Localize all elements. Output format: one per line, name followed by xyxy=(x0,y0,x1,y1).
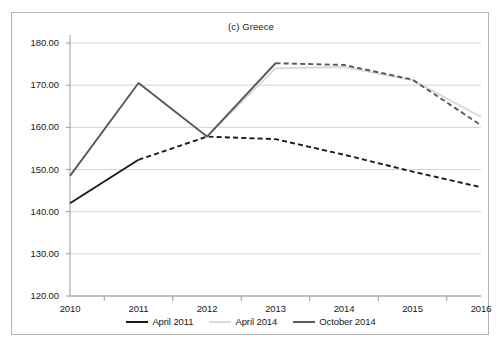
y-axis-tick-label: 180.00 xyxy=(13,37,59,48)
series-line-october-2014-solid xyxy=(70,63,276,176)
legend-label: April 2014 xyxy=(235,316,277,327)
legend-line-swatch xyxy=(209,321,231,323)
legend-item[interactable]: April 2014 xyxy=(209,316,277,327)
x-axis-tick-label: 2010 xyxy=(50,303,90,314)
figure-canvas: (c) Greece 120.00130.00140.00150.00160.0… xyxy=(0,0,501,349)
series-line-october-2014-dashed xyxy=(276,63,482,125)
x-axis-tick-label: 2014 xyxy=(324,303,364,314)
x-axis-tick-label: 2015 xyxy=(393,303,433,314)
legend-line-swatch xyxy=(126,321,148,323)
series-line-april-2011-dashed xyxy=(139,137,482,188)
x-axis-tick-label: 2012 xyxy=(187,303,227,314)
x-axis-tick-label: 2011 xyxy=(119,303,159,314)
y-axis-tick-label: 160.00 xyxy=(13,121,59,132)
y-axis-tick-label: 150.00 xyxy=(13,164,59,175)
legend-label: October 2014 xyxy=(319,316,375,327)
plot-area: 120.00130.00140.00150.00160.00170.00180.… xyxy=(12,13,490,336)
series-line-april-2014 xyxy=(207,67,481,137)
legend-item[interactable]: October 2014 xyxy=(293,316,375,327)
x-axis-tick-label: 2016 xyxy=(461,303,501,314)
chart-legend: April 2011April 2014October 2014 xyxy=(12,316,490,327)
series-line-april-2011-solid xyxy=(70,160,139,203)
legend-label: April 2011 xyxy=(152,316,193,327)
plot-svg xyxy=(12,13,490,336)
legend-item[interactable]: April 2011 xyxy=(126,316,193,327)
y-axis-tick-label: 170.00 xyxy=(13,79,59,90)
y-axis-tick-label: 120.00 xyxy=(13,290,59,301)
y-axis-tick-label: 130.00 xyxy=(13,248,59,259)
chart-frame: (c) Greece 120.00130.00140.00150.00160.0… xyxy=(11,12,489,335)
legend-line-swatch xyxy=(293,321,315,323)
x-axis-tick-label: 2013 xyxy=(256,303,296,314)
y-axis-tick-label: 140.00 xyxy=(13,206,59,217)
